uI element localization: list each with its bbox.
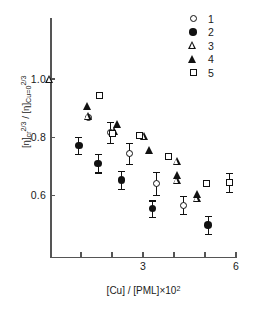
legend-item-5: 5 bbox=[186, 66, 246, 79]
y-axis-title-slash: / bbox=[20, 114, 31, 122]
marker-filled-circle bbox=[149, 205, 157, 213]
marker-open-circle bbox=[153, 180, 160, 187]
error-bar-cap-top bbox=[205, 216, 212, 217]
legend-item-2: 2 bbox=[186, 25, 246, 38]
y-axis-title: [η]cr2/3 / [η]Cu=02/3 bbox=[18, 42, 34, 182]
marker-open-square bbox=[109, 130, 116, 137]
marker-open-triangle bbox=[173, 157, 181, 165]
legend-label: 4 bbox=[208, 53, 214, 65]
legend-marker-box bbox=[186, 25, 200, 38]
marker-filled-triangle bbox=[83, 102, 91, 110]
x-axis-title: [Cu] / [PML]×102 bbox=[50, 283, 237, 297]
legend-marker-open-circle bbox=[190, 15, 197, 22]
error-bar-cap-bottom bbox=[149, 217, 156, 218]
y-axis-title-eta1: [η] bbox=[20, 137, 31, 148]
legend-marker-filled-circle bbox=[189, 28, 197, 36]
legend-label: 5 bbox=[208, 67, 214, 79]
y-axis-title-sup1: 2/3 bbox=[19, 121, 28, 131]
error-bar-cap-top bbox=[95, 154, 102, 155]
error-bar-cap-top bbox=[126, 143, 133, 144]
x-axis-title-exponent: 2 bbox=[176, 284, 180, 293]
legend-item-4: 4 bbox=[186, 52, 246, 65]
error-bar-cap-bottom bbox=[226, 192, 233, 193]
error-bar-cap-bottom bbox=[153, 195, 160, 196]
marker-filled-circle bbox=[204, 221, 212, 229]
marker-open-circle bbox=[126, 150, 133, 157]
error-bar-cap-top bbox=[180, 196, 187, 197]
legend-marker-box bbox=[186, 12, 200, 25]
marker-filled-circle bbox=[118, 176, 126, 184]
legend-marker-box bbox=[186, 52, 200, 65]
marker-open-square bbox=[226, 179, 233, 186]
marker-filled-circle bbox=[75, 142, 83, 150]
error-bar-cap-top bbox=[153, 172, 160, 173]
error-bar-cap-top bbox=[226, 173, 233, 174]
legend-item-1: 1 bbox=[186, 12, 246, 25]
chart-figure: 0.60.81.036 [η]cr2/3 / [η]Cu=02/3 [Cu] /… bbox=[0, 0, 253, 313]
y-axis-title-sub2: Cu=0 bbox=[24, 86, 33, 103]
y-axis-title-eta2: [η] bbox=[20, 103, 31, 114]
marker-open-square bbox=[136, 132, 143, 139]
y-axis-title-sub1: cr bbox=[24, 131, 33, 137]
marker-open-square bbox=[203, 180, 210, 187]
legend-label: 3 bbox=[208, 40, 214, 52]
error-bar-cap-bottom bbox=[118, 189, 125, 190]
legend-item-3: 3 bbox=[186, 39, 246, 52]
legend-marker-open-square bbox=[190, 69, 197, 76]
marker-filled-triangle bbox=[193, 190, 201, 198]
x-axis-title-main: [Cu] / [PML]×10 bbox=[107, 285, 177, 296]
marker-open-triangle bbox=[84, 112, 92, 120]
error-bar-cap-top bbox=[118, 171, 125, 172]
marker-filled-triangle bbox=[173, 171, 181, 179]
marker-open-triangle bbox=[45, 75, 53, 83]
marker-filled-triangle bbox=[145, 146, 153, 154]
legend-marker-box bbox=[186, 66, 200, 79]
legend-marker-filled-triangle bbox=[188, 55, 196, 63]
y-axis-title-sup2: 2/3 bbox=[19, 76, 28, 86]
error-bar-cap-bottom bbox=[126, 164, 133, 165]
marker-open-circle bbox=[180, 202, 187, 209]
error-bar-cap-bottom bbox=[95, 172, 102, 173]
marker-filled-circle bbox=[94, 160, 102, 168]
legend-marker-box bbox=[186, 39, 200, 52]
marker-filled-triangle bbox=[113, 120, 121, 128]
error-bar-cap-bottom bbox=[75, 154, 82, 155]
marker-open-square bbox=[165, 153, 172, 160]
error-bar-cap-top bbox=[149, 200, 156, 201]
chart-legend: 12345 bbox=[186, 12, 246, 79]
error-bar-cap-top bbox=[75, 137, 82, 138]
error-bar-cap-bottom bbox=[107, 143, 114, 144]
error-bar-cap-bottom bbox=[205, 234, 212, 235]
legend-marker-open-triangle bbox=[188, 41, 196, 49]
legend-label: 2 bbox=[208, 26, 214, 38]
marker-open-square bbox=[96, 92, 103, 99]
error-bar-cap-bottom bbox=[180, 214, 187, 215]
legend-label: 1 bbox=[208, 13, 214, 25]
